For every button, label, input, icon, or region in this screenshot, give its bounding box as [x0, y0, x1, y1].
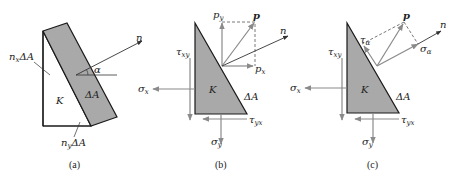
k-label: K: [208, 84, 217, 95]
sigma-y-label: σy: [362, 136, 374, 149]
p-label: p: [253, 10, 260, 21]
n-label: n: [280, 25, 286, 36]
element-triangle: [347, 23, 399, 113]
n-label: n: [440, 19, 446, 30]
n-label: n: [136, 32, 142, 43]
tau-xy-label: τxy: [328, 46, 342, 59]
tau-alpha-label: τα: [360, 34, 371, 47]
px-label: px: [255, 63, 265, 76]
alpha-label: α: [94, 64, 101, 75]
sigma-x-label: σx: [290, 82, 301, 95]
sigma-alpha-label: σα: [420, 43, 432, 56]
sigma-alpha-dashed: [404, 22, 418, 44]
delta-a-label: ΔA: [84, 89, 99, 100]
panel-c: p n τα σα τxy σx K ΔA τyx σy (c): [290, 10, 446, 171]
delta-a-label: ΔA: [243, 91, 258, 102]
tau-yx-label: τyx: [249, 114, 263, 127]
sigma-x-label: σx: [138, 83, 149, 96]
p-arrow: [222, 23, 254, 66]
element-triangle: [195, 23, 247, 114]
py-label: py: [213, 9, 224, 22]
k-label: K: [360, 84, 369, 95]
tau-xy-label: τxy: [176, 46, 190, 59]
ny-delta-a-label: nyΔA: [61, 137, 86, 150]
caption-a: (a): [69, 159, 80, 171]
caption-c: (c): [367, 159, 378, 171]
nx-delta-a-label: nxΔA: [9, 51, 34, 64]
panel-a: n α ΔA K nxΔA nyΔA (a): [9, 23, 142, 171]
delta-a-label: ΔA: [395, 91, 410, 102]
caption-b: (b): [215, 159, 227, 171]
panel-b: p n py px τxy σx K ΔA τyx σy (b): [138, 9, 288, 171]
k-label: K: [55, 95, 64, 106]
p-label: p: [403, 10, 410, 21]
tau-yx-label: τyx: [401, 114, 415, 127]
stress-element-figure: n α ΔA K nxΔA nyΔA (a) p n py px τxy σx …: [0, 0, 453, 177]
